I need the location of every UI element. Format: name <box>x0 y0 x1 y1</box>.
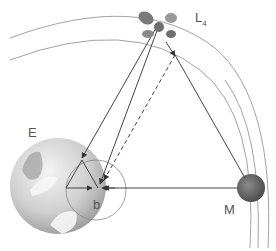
inner-orbit-arc <box>225 80 258 248</box>
barycenter-label: b <box>93 197 100 212</box>
l4-label-sub: 4 <box>202 19 206 28</box>
earth-moon-l4-diagram: E M b L4 <box>0 0 276 251</box>
moon <box>237 174 265 202</box>
moon-label: M <box>224 202 235 217</box>
l4-label: L4 <box>195 10 207 28</box>
earth-label: E <box>28 125 37 140</box>
